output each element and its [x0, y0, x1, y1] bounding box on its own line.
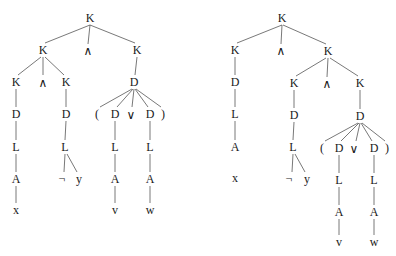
or-symbol: ∨ — [350, 142, 359, 156]
node-d: D — [146, 107, 155, 121]
node-l: L — [231, 107, 238, 121]
node-a: A — [231, 140, 240, 154]
node-l: L — [370, 173, 377, 187]
node-a: A — [370, 205, 379, 219]
node-l: L — [111, 140, 118, 154]
node-d: D — [335, 141, 344, 155]
node-k: K — [290, 76, 299, 90]
node-k: K — [278, 11, 287, 25]
and-symbol: ∧ — [39, 76, 48, 90]
and-symbol: ∧ — [277, 44, 286, 58]
close-paren: ) — [161, 107, 165, 121]
leaf-y: y — [304, 172, 310, 186]
leaf-x: x — [232, 171, 238, 185]
node-a: A — [335, 205, 344, 219]
node-d: D — [370, 141, 379, 155]
node-l: L — [146, 140, 153, 154]
node-k: K — [12, 75, 21, 89]
or-symbol: ∨ — [127, 108, 136, 122]
node-k: K — [86, 11, 95, 25]
node-a: A — [146, 172, 155, 186]
leaf-y: y — [76, 172, 82, 186]
node-d: D — [12, 107, 21, 121]
node-a: A — [111, 172, 120, 186]
and-symbol: ∧ — [84, 44, 93, 58]
not-symbol: ¬ — [286, 172, 293, 186]
node-l: L — [61, 140, 68, 154]
and-symbol: ∧ — [323, 77, 332, 91]
node-d: D — [62, 107, 71, 121]
node-k: K — [39, 43, 48, 57]
leaf-v: v — [336, 235, 342, 249]
node-d: D — [290, 108, 299, 122]
close-paren: ) — [385, 141, 389, 155]
node-k: K — [324, 44, 333, 58]
open-paren: ( — [95, 107, 99, 121]
node-l: L — [289, 140, 296, 154]
node-d: D — [130, 75, 139, 89]
leaf-w: w — [146, 203, 155, 217]
node-k: K — [356, 76, 365, 90]
node-l: L — [335, 173, 342, 187]
node-a: A — [12, 172, 21, 186]
open-paren: ( — [320, 141, 324, 155]
leaf-w: w — [370, 235, 379, 249]
node-k: K — [62, 75, 71, 89]
node-k: K — [231, 43, 240, 57]
node-k: K — [133, 43, 142, 57]
node-d: D — [356, 109, 365, 123]
node-l: L — [12, 140, 19, 154]
leaf-x: x — [13, 203, 19, 217]
node-d: D — [231, 75, 240, 89]
node-d: D — [111, 107, 120, 121]
not-symbol: ¬ — [59, 172, 66, 186]
parse-tree-diagram: KK∧KK∧KDDD(D∨D)LLLLA¬yAAxvw KK∧KDK∧KLDDA… — [0, 0, 396, 256]
leaf-v: v — [112, 203, 118, 217]
